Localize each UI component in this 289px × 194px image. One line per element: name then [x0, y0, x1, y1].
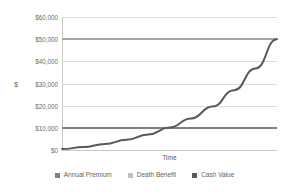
y-axis-tick-labels: $60,000$50,000$40,000$30,000$20,000$10,0…: [14, 14, 60, 150]
legend-label: Death Benefit: [137, 171, 176, 179]
legend-item[interactable]: Annual Premium: [55, 171, 112, 179]
y-axis-tick-label: $50,000: [35, 36, 58, 43]
legend-label: Annual Premium: [64, 171, 112, 179]
legend-item[interactable]: Cash Value: [192, 171, 234, 179]
x-axis-baseline: [62, 150, 277, 151]
y-axis-tick-label: $30,000: [35, 80, 58, 87]
y-axis-tick-label: $20,000: [35, 102, 58, 109]
plot-area: [62, 17, 277, 150]
y-axis-tick-label: $40,000: [35, 58, 58, 65]
legend-swatch-icon: [192, 173, 197, 178]
legend-swatch-icon: [128, 173, 133, 178]
legend-label: Cash Value: [201, 171, 234, 179]
cash-value-curve-svg: [62, 17, 277, 150]
chart-container: $ $60,000$50,000$40,000$30,000$20,000$10…: [0, 0, 289, 194]
y-axis-tick-label: $10,000: [35, 124, 58, 131]
legend-swatch-icon: [55, 173, 60, 178]
chart-legend: Annual PremiumDeath BenefitCash Value: [0, 171, 289, 179]
y-axis-tick-label: $0: [51, 147, 58, 154]
legend-item[interactable]: Death Benefit: [128, 171, 176, 179]
x-axis-title: Time: [62, 153, 277, 162]
y-axis-tick-label: $60,000: [35, 14, 58, 21]
